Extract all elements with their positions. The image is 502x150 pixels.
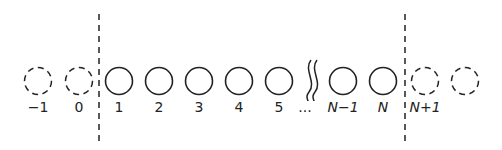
site: 3 bbox=[186, 68, 213, 116]
svg-text:5: 5 bbox=[275, 99, 284, 115]
svg-text:N: N bbox=[378, 99, 389, 115]
lattice-diagram: −1 0 1 2 3 4 5 ... N−1 N N+1 bbox=[0, 0, 502, 150]
site: 4 bbox=[226, 68, 253, 116]
ghost-site: N+1 bbox=[409, 68, 440, 116]
break-squiggle-icon bbox=[307, 60, 318, 101]
svg-text:1: 1 bbox=[115, 99, 124, 115]
site: 1 bbox=[106, 68, 133, 116]
site: 2 bbox=[146, 68, 173, 116]
svg-text:N+1: N+1 bbox=[409, 99, 440, 115]
svg-text:N−1: N−1 bbox=[327, 99, 358, 115]
site: N bbox=[370, 68, 397, 116]
ghost-site bbox=[452, 68, 479, 95]
svg-text:4: 4 bbox=[235, 99, 244, 115]
ghost-site: 0 bbox=[66, 68, 93, 116]
svg-text:3: 3 bbox=[195, 99, 204, 115]
svg-text:−1: −1 bbox=[28, 99, 49, 115]
ghost-site: −1 bbox=[25, 68, 52, 116]
site: N−1 bbox=[327, 68, 358, 116]
svg-text:2: 2 bbox=[155, 99, 164, 115]
ellipsis: ... bbox=[298, 99, 311, 115]
svg-text:0: 0 bbox=[75, 99, 84, 115]
site: 5 bbox=[266, 68, 293, 116]
